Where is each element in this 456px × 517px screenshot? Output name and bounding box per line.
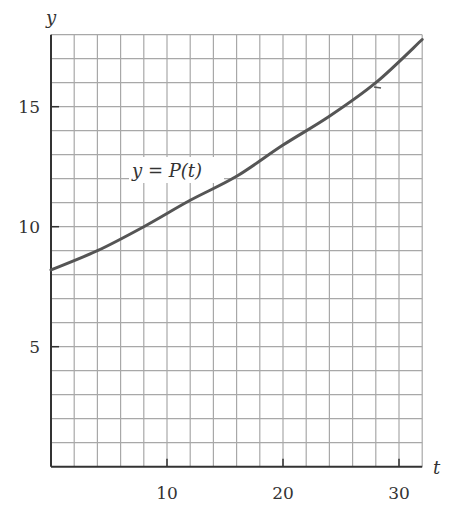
y-tick-label: 5 [29,337,40,357]
x-tick-label: 20 [272,483,294,503]
y-axis-label: y [45,7,57,28]
y-tick-label: 10 [18,217,40,237]
curve-label: y = P(t) [131,160,202,181]
grid-lines [51,35,422,467]
y-tick-label: 15 [18,97,40,117]
x-axis-label: t [433,457,441,478]
chart-canvas: 10203051015 y = P(t) t y [0,0,456,517]
scan-artifact-mark [374,87,381,88]
x-tick-label: 30 [388,483,410,503]
x-tick-label: 10 [156,483,178,503]
